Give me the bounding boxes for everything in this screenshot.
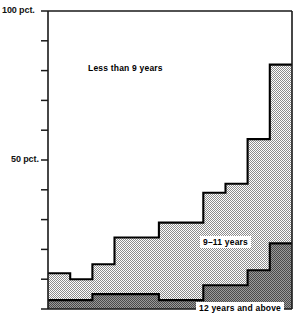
y-axis-label-100: 100 pct. [2, 5, 35, 15]
series-label-12-years-and-above: 12 years and above [196, 302, 284, 314]
series-label-less-than-9-years: Less than 9 years [88, 63, 163, 73]
y-axis-ticks [41, 11, 48, 309]
series-label-9-11-years: 9–11 years [200, 236, 251, 248]
y-axis-label-50: 50 pct. [11, 154, 39, 164]
stacked-area-chart: 100 pct. 50 pct. Less than 9 years 9–11 … [0, 0, 297, 322]
chart-canvas [0, 0, 297, 322]
